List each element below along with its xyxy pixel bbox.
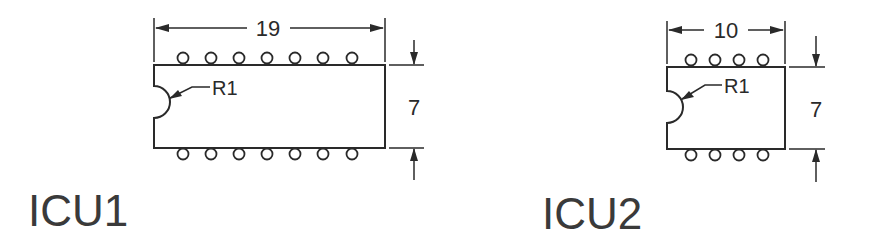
icu1-bottom-pins [178, 149, 358, 160]
icu2-height-label: 7 [810, 97, 822, 122]
icu2-notch-callout: R1 [681, 75, 750, 100]
ic-footprint-drawing: 19 7 R1 ICU1 [0, 0, 870, 251]
icu1-footprint: 19 7 R1 ICU1 [28, 16, 424, 235]
icu2-title: ICU2 [542, 189, 642, 238]
icu2-height-dimension: 7 [789, 36, 825, 182]
icu2-width-label: 10 [714, 18, 738, 43]
icu2-bottom-pins [686, 150, 769, 161]
icu1-height-dimension: 7 [389, 40, 424, 180]
icu2-footprint: 10 7 R1 ICU2 [542, 18, 825, 238]
icu2-notch-label: R1 [724, 75, 750, 97]
icu2-top-pins [686, 55, 769, 66]
icu1-top-pins [178, 53, 358, 64]
icu1-height-label: 7 [408, 95, 420, 120]
icu1-body-outline [154, 65, 385, 148]
icu1-width-label: 19 [256, 16, 280, 41]
icu1-notch-label: R1 [212, 77, 238, 99]
icu1-notch-callout: R1 [169, 77, 238, 99]
icu1-title: ICU1 [28, 186, 128, 235]
